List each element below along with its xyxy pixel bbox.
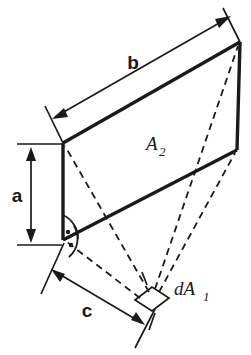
dimension-a-arrowhead-top — [26, 147, 36, 161]
dimension-b-extension-right — [223, 8, 240, 42]
dashed-ray-to-bottom-right-corner — [159, 153, 235, 292]
dashed-ray-group — [65, 46, 238, 298]
a2-edge-right — [237, 42, 240, 150]
dimension-b-line — [55, 18, 228, 117]
da1-normal-stub-upper — [142, 272, 147, 285]
dimension-b-arrowhead-right — [215, 16, 231, 28]
dimension-b-label: b — [127, 52, 139, 73]
dimension-c-line — [54, 271, 142, 323]
dimension-b-arrowhead-left — [52, 108, 68, 119]
area-label-da1-base: dA — [174, 278, 196, 299]
a2-edge-top — [63, 42, 240, 143]
area-label-da1: dA 1 — [174, 278, 210, 304]
right-angle-dot-upper — [66, 230, 70, 234]
area-label-a2: A 2 — [144, 133, 166, 159]
dimension-a-label: a — [12, 185, 23, 206]
da1-outline — [135, 287, 169, 311]
dimension-b-group: b — [45, 8, 240, 143]
geometry-figure: b a c A 2 dA 1 — [0, 0, 251, 355]
dimension-c-arrowhead-right — [131, 312, 145, 325]
dimension-a-group: a — [12, 144, 62, 245]
right-angle-arc-with-dot-lower — [69, 226, 78, 257]
dimension-c-arrowhead-left — [51, 269, 65, 282]
area-label-a2-subscript: 2 — [159, 144, 166, 159]
right-angle-dot-lower — [69, 243, 73, 247]
dimension-c-label: c — [82, 300, 93, 321]
a2-edge-bottom — [63, 150, 237, 240]
dimension-a-arrowhead-bottom — [26, 229, 36, 243]
area-label-a2-base: A — [144, 133, 158, 154]
area-label-da1-subscript: 1 — [203, 289, 210, 304]
dashed-ray-to-bottom-left-corner — [67, 242, 140, 298]
diagram-canvas: b a c A 2 dA 1 — [0, 0, 251, 355]
dimension-c-extension-right — [135, 309, 155, 348]
dimension-c-extension-left — [41, 243, 64, 294]
